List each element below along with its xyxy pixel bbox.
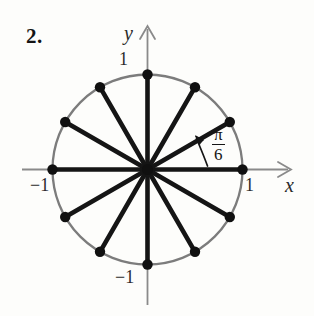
angle-pointer-curve [197, 139, 208, 167]
point-270 [142, 259, 152, 269]
point-60 [190, 82, 200, 92]
point-0 [237, 164, 247, 174]
angle-fraction-numerator: π [212, 126, 225, 145]
unit-circle-figure: 2. y x 1 1 −1 −1 π 6 [0, 0, 314, 316]
point-210 [60, 212, 70, 222]
x-axis-label: x [285, 175, 294, 195]
unit-circle-diagram [0, 0, 314, 316]
angle-fraction-denominator: 6 [212, 145, 225, 163]
point-150 [60, 117, 70, 127]
point-90 [142, 69, 152, 79]
point-240 [95, 247, 105, 257]
y-tick-label-negative-one: −1 [115, 268, 134, 286]
problem-number-label: 2. [26, 26, 43, 47]
point-330 [225, 212, 235, 222]
point-180 [47, 164, 57, 174]
point-300 [190, 247, 200, 257]
point-30 [225, 117, 235, 127]
angle-fraction-label: π 6 [212, 126, 225, 163]
x-tick-label-positive-one: 1 [245, 176, 254, 194]
origin-point [142, 164, 153, 175]
y-axis-label: y [124, 23, 133, 43]
angle-pointer-arrow [196, 136, 208, 166]
point-120 [95, 82, 105, 92]
y-tick-label-positive-one: 1 [119, 50, 128, 68]
x-tick-label-negative-one: −1 [30, 176, 49, 194]
